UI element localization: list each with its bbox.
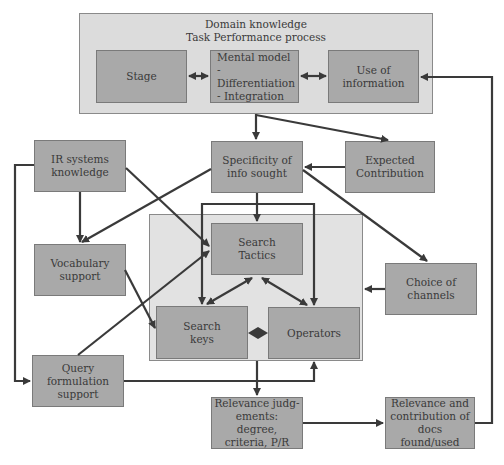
node-search-tactics: Search Tactics — [211, 223, 303, 275]
node-relevance-contribution: Relevance and contribution of docs found… — [385, 397, 475, 449]
node-search-keys: Search keys — [156, 306, 248, 359]
domain-knowledge-title: Domain knowledge Task Performance proces… — [80, 18, 432, 44]
node-mental-model: Mental model - Differentiation - Integra… — [210, 50, 299, 103]
node-choice-of-channels: Choice of channels — [385, 263, 477, 315]
node-ir-systems-knowledge: IR systems knowledge — [34, 140, 126, 192]
node-use-of-information: Use of information — [328, 50, 419, 103]
node-operators: Operators — [268, 307, 360, 359]
node-stage: Stage — [96, 50, 187, 103]
arrow-ir-query — [15, 165, 34, 381]
node-expected-contribution: Expected Contribution — [345, 141, 435, 193]
node-specificity-of-info-sought: Specificity of info sought — [211, 141, 303, 193]
arrow-contribution-use — [421, 77, 492, 423]
node-query-formulation-support: Query formulation support — [32, 355, 124, 407]
arrow-group-expected — [256, 115, 388, 140]
arrow-query-operators — [124, 362, 314, 381]
node-vocabulary-support: Vocabulary support — [34, 244, 126, 296]
node-relevance-judgements: Relevance judg- ements: degree, criteria… — [211, 397, 303, 449]
diagram-canvas: Domain knowledge Task Performance proces… — [0, 0, 504, 465]
